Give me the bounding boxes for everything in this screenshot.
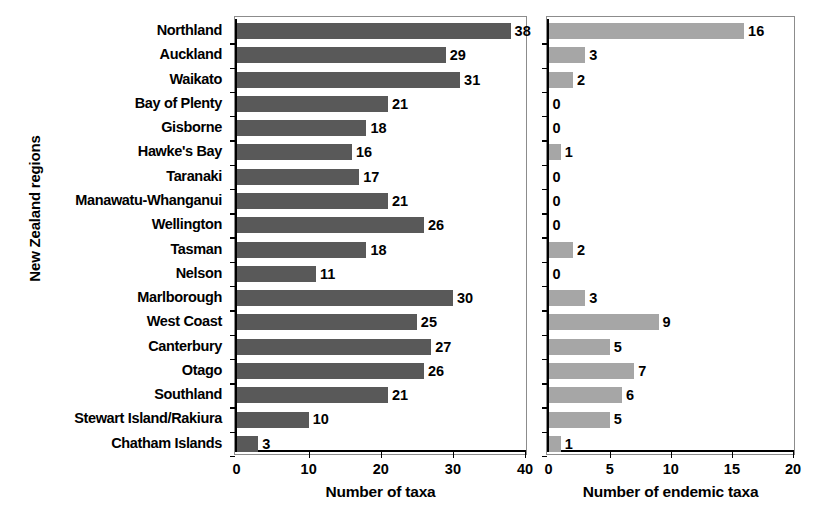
bar-value-label: 18 xyxy=(370,241,386,259)
bar-row: 9 xyxy=(547,310,794,334)
bar-value-label: 0 xyxy=(553,168,561,186)
category-label: Chatham Islands xyxy=(111,431,222,455)
value-tick-label: 10 xyxy=(301,461,317,477)
bar[interactable] xyxy=(549,242,573,258)
bar[interactable] xyxy=(549,23,745,39)
category-label: Nelson xyxy=(176,261,222,285)
bar-row: 11 xyxy=(235,262,526,286)
bar-value-label: 1 xyxy=(565,435,573,453)
bar-value-label: 3 xyxy=(262,435,270,453)
bar[interactable] xyxy=(237,72,461,88)
category-label: Auckland xyxy=(160,42,222,66)
bar[interactable] xyxy=(237,96,388,112)
bar-row: 7 xyxy=(547,359,794,383)
bar[interactable] xyxy=(237,23,511,39)
bar[interactable] xyxy=(549,290,586,306)
bar-row: 26 xyxy=(235,359,526,383)
bar-value-label: 0 xyxy=(553,119,561,137)
bar-value-label: 21 xyxy=(392,192,408,210)
bar[interactable] xyxy=(549,314,659,330)
category-label: Manawatu-Whanganui xyxy=(75,188,222,212)
bar[interactable] xyxy=(549,436,561,452)
value-tick xyxy=(525,452,526,458)
value-tick-label: 5 xyxy=(606,461,614,477)
bar-row: 16 xyxy=(547,19,794,43)
bar[interactable] xyxy=(549,339,610,355)
bar[interactable] xyxy=(237,436,259,452)
bar-value-label: 17 xyxy=(363,168,379,186)
bar-row: 0 xyxy=(547,116,794,140)
value-tick-label: 20 xyxy=(785,461,801,477)
bar[interactable] xyxy=(549,47,586,63)
bar[interactable] xyxy=(237,217,424,233)
bar[interactable] xyxy=(237,266,316,282)
bar-value-label: 1 xyxy=(565,143,573,161)
bar-row: 0 xyxy=(547,262,794,286)
bar-value-label: 27 xyxy=(435,338,451,356)
bar[interactable] xyxy=(237,47,446,63)
bar-value-label: 10 xyxy=(313,410,329,428)
category-label: Bay of Plenty xyxy=(135,91,222,115)
value-tick xyxy=(610,452,611,458)
bar[interactable] xyxy=(237,314,417,330)
bar-row: 2 xyxy=(547,68,794,92)
bar[interactable] xyxy=(549,412,610,428)
bar-row: 16 xyxy=(235,140,526,164)
bar[interactable] xyxy=(237,242,367,258)
bar[interactable] xyxy=(549,363,635,379)
bar[interactable] xyxy=(237,290,453,306)
bar-row: 0 xyxy=(547,189,794,213)
bar-row: 21 xyxy=(235,189,526,213)
bar[interactable] xyxy=(237,412,309,428)
bar[interactable] xyxy=(237,169,360,185)
x-axis-title-taxa: Number of taxa xyxy=(234,483,527,501)
bar[interactable] xyxy=(549,387,622,403)
category-tick xyxy=(542,456,547,457)
panel-number-of-endemic-taxa: 1632001000203957651 xyxy=(546,16,795,455)
bar[interactable] xyxy=(549,72,573,88)
bar-value-label: 0 xyxy=(553,265,561,283)
bar-value-label: 6 xyxy=(626,386,634,404)
bar-value-label: 30 xyxy=(457,289,473,307)
bar-value-label: 18 xyxy=(370,119,386,137)
bar-row: 30 xyxy=(235,286,526,310)
category-label: Taranaki xyxy=(166,164,222,188)
value-tick-label: 20 xyxy=(373,461,389,477)
bar[interactable] xyxy=(237,339,432,355)
bar-value-label: 3 xyxy=(589,289,597,307)
category-label: Canterbury xyxy=(148,334,222,358)
bar-row: 3 xyxy=(547,43,794,67)
bar-row: 38 xyxy=(235,19,526,43)
category-label: Stewart Island/Rakiura xyxy=(74,406,222,430)
category-label: Tasman xyxy=(170,237,222,261)
plot-area-endemic: 1632001000203957651 xyxy=(547,19,794,452)
bar-row: 21 xyxy=(235,383,526,407)
bar[interactable] xyxy=(237,387,388,403)
bar-value-label: 0 xyxy=(553,216,561,234)
bar[interactable] xyxy=(237,120,367,136)
bar-row: 3 xyxy=(547,286,794,310)
bar-row: 26 xyxy=(235,213,526,237)
bar-row: 5 xyxy=(547,407,794,431)
bar-value-label: 5 xyxy=(614,338,622,356)
value-tick-label: 0 xyxy=(233,461,241,477)
plot-area-taxa: 38293121181617212618113025272621103 xyxy=(235,19,526,452)
bar[interactable] xyxy=(237,193,388,209)
bar-value-label: 29 xyxy=(450,46,466,64)
bar[interactable] xyxy=(237,144,352,160)
bar-row: 5 xyxy=(547,335,794,359)
bar-row: 6 xyxy=(547,383,794,407)
category-label: Gisborne xyxy=(161,115,222,139)
value-tick xyxy=(453,452,454,458)
value-tick xyxy=(732,452,733,458)
bar-chart-figure: New Zealand regions NorthlandAucklandWai… xyxy=(0,0,814,519)
category-label: West Coast xyxy=(147,309,222,333)
bar-value-label: 5 xyxy=(614,410,622,428)
bar-row: 17 xyxy=(235,165,526,189)
bar-row: 0 xyxy=(547,92,794,116)
bar[interactable] xyxy=(549,144,561,160)
category-tick xyxy=(230,456,235,457)
value-tick xyxy=(671,452,672,458)
bar-value-label: 11 xyxy=(320,265,335,283)
bar[interactable] xyxy=(237,363,424,379)
